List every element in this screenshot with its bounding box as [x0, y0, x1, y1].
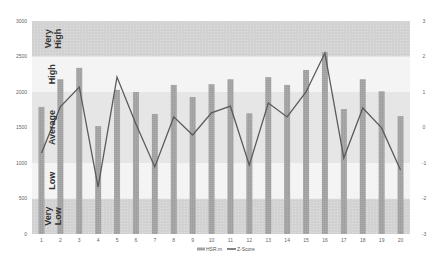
bar [360, 79, 366, 234]
x-tick-label: 2 [59, 237, 62, 243]
bar [133, 92, 139, 234]
x-tick-label: 3 [78, 237, 81, 243]
x-axis: 1234567891011121314151617181920 [40, 237, 403, 243]
chart: VeryLowLowAverageHighVeryHigh 0500100015… [0, 0, 441, 267]
x-tick-label: 9 [191, 237, 194, 243]
left-axis: 050010001500200025003000 [16, 18, 27, 237]
x-tick-label: 1 [40, 237, 43, 243]
bar [114, 90, 120, 234]
y2-tick-label: 3 [423, 18, 426, 24]
band-label: VeryHigh [43, 29, 63, 49]
y2-tick-label: -2 [422, 195, 427, 201]
bar [152, 114, 158, 234]
band-very-low [32, 199, 410, 235]
x-tick-label: 5 [116, 237, 119, 243]
x-tick-label: 15 [303, 237, 309, 243]
bar [379, 91, 385, 234]
y-tick-label: 3000 [16, 18, 27, 24]
x-tick-label: 18 [360, 237, 366, 243]
x-tick-label: 16 [322, 237, 328, 243]
x-tick-label: 14 [284, 237, 290, 243]
legend-label: Z-Score [237, 246, 255, 252]
x-tick-label: 12 [247, 237, 253, 243]
x-tick-label: 13 [265, 237, 271, 243]
legend-label: HSR.m [206, 246, 222, 252]
x-tick-label: 20 [398, 237, 404, 243]
bar [76, 68, 82, 234]
x-tick-label: 6 [135, 237, 138, 243]
legend: HSR.mZ-Score [197, 246, 255, 252]
x-tick-label: 8 [172, 237, 175, 243]
bar [341, 109, 347, 234]
band-low [32, 163, 410, 199]
bar [190, 97, 196, 234]
x-tick-label: 19 [379, 237, 385, 243]
y2-tick-label: 1 [423, 89, 426, 95]
bar [171, 85, 177, 234]
band-very-high [32, 21, 410, 57]
y-tick-label: 0 [24, 231, 27, 237]
performance-bands [32, 21, 410, 234]
y-tick-label: 500 [19, 195, 28, 201]
bar [265, 77, 271, 234]
y-tick-label: 1000 [16, 160, 27, 166]
y2-tick-label: -3 [422, 231, 427, 237]
y-tick-label: 2000 [16, 89, 27, 95]
bar [398, 116, 404, 234]
bar [95, 126, 101, 234]
y2-tick-label: 0 [423, 124, 426, 130]
x-tick-label: 4 [97, 237, 100, 243]
y-tick-label: 2500 [16, 53, 27, 59]
legend-bar-swatch [197, 248, 205, 251]
x-tick-label: 7 [153, 237, 156, 243]
y2-tick-label: 2 [423, 53, 426, 59]
x-tick-label: 11 [228, 237, 233, 243]
bar [209, 84, 215, 234]
y2-tick-label: -1 [422, 160, 427, 166]
band-label: High [47, 64, 57, 84]
band-label: Average [47, 110, 57, 145]
bar [284, 85, 290, 234]
bar [246, 113, 252, 234]
x-tick-label: 10 [209, 237, 215, 243]
band-label: VeryLow [43, 206, 63, 226]
x-tick-label: 17 [341, 237, 347, 243]
right-axis: -3-2-10123 [422, 18, 427, 237]
bar [322, 52, 328, 234]
y-tick-label: 1500 [16, 124, 27, 130]
band-label: Low [47, 171, 57, 190]
band-high [32, 57, 410, 93]
band-average [32, 92, 410, 163]
bar [227, 79, 233, 234]
